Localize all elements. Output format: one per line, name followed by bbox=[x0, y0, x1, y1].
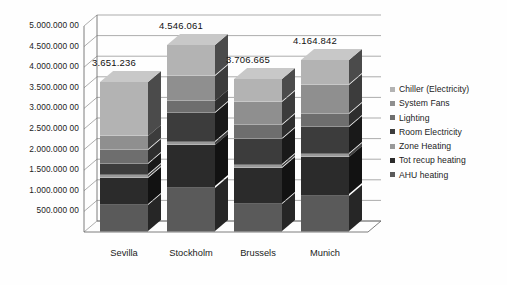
y-axis-tick-label: 1.000.000 00 bbox=[29, 185, 79, 195]
bar-segment bbox=[234, 168, 282, 204]
chart-container: 5.000.000 004.500.000 004.000.000 003.50… bbox=[0, 0, 507, 285]
bar-segment bbox=[100, 82, 148, 137]
y-axis-tick-label: 4.000.000 00 bbox=[29, 61, 79, 71]
bar-segment bbox=[167, 145, 215, 187]
bar-segment bbox=[167, 101, 215, 113]
legend-item[interactable]: AHU heating bbox=[390, 170, 507, 180]
bar-value-label: 4.164.842 bbox=[293, 35, 337, 46]
legend-item[interactable]: Tot recup heating bbox=[390, 155, 507, 165]
bar-column bbox=[234, 79, 282, 232]
bar-segment bbox=[301, 60, 349, 85]
legend-swatch-icon bbox=[390, 144, 395, 149]
legend-item-label: AHU heating bbox=[399, 170, 448, 180]
bar-segment bbox=[234, 102, 282, 125]
legend-swatch-icon bbox=[390, 101, 395, 106]
legend-item[interactable]: Lighting bbox=[390, 113, 507, 123]
legend-swatch-icon bbox=[390, 115, 395, 120]
x-axis-category-label: Brussels bbox=[220, 248, 296, 258]
legend-item[interactable]: Zone Heating bbox=[390, 141, 507, 151]
bar-stack bbox=[301, 60, 349, 232]
bar-value-label: 3.706.665 bbox=[226, 54, 270, 65]
bar-segment bbox=[100, 205, 148, 232]
legend-swatch-icon bbox=[390, 172, 395, 177]
bar-column bbox=[100, 82, 148, 232]
bar-stack bbox=[100, 82, 148, 232]
bar-column bbox=[167, 45, 215, 232]
bar-segment bbox=[301, 85, 349, 114]
legend-item-label: Room Electricity bbox=[399, 127, 462, 137]
y-axis-tick-label: 2.000.000 00 bbox=[29, 144, 79, 154]
legend-swatch-icon bbox=[390, 87, 395, 92]
y-axis-tick-label: 2.500.000 00 bbox=[29, 123, 79, 133]
legend-item-label: System Fans bbox=[399, 98, 450, 108]
y-axis-tick-label: 500.000 00 bbox=[36, 205, 79, 215]
x-axis-category-label: Munich bbox=[287, 248, 363, 258]
legend-swatch-icon bbox=[390, 158, 395, 163]
bar-segment bbox=[167, 45, 215, 76]
bar-column bbox=[301, 60, 349, 232]
bar-value-label: 3.651.236 bbox=[92, 57, 136, 68]
bar-stack bbox=[167, 45, 215, 232]
legend-item-label: Tot recup heating bbox=[399, 155, 466, 165]
bar-segment bbox=[301, 196, 349, 232]
bar-segment bbox=[301, 157, 349, 195]
bar-segment bbox=[301, 127, 349, 154]
y-axis-tick-label: 3.500.000 00 bbox=[29, 82, 79, 92]
bar-segment bbox=[234, 139, 282, 165]
legend-item[interactable]: System Fans bbox=[390, 98, 507, 108]
bar-segment bbox=[234, 79, 282, 102]
bar-segment bbox=[167, 76, 215, 102]
bar-segment bbox=[100, 178, 148, 205]
chart-legend: Chiller (Electricity)System FansLighting… bbox=[390, 84, 507, 184]
legend-item[interactable]: Chiller (Electricity) bbox=[390, 84, 507, 94]
x-axis-category-label: Sevilla bbox=[86, 248, 162, 258]
bar-segment bbox=[100, 136, 148, 150]
bar-stack bbox=[234, 79, 282, 232]
bar-value-label: 4.546.061 bbox=[159, 20, 203, 31]
x-axis-category-label: Stockholm bbox=[153, 248, 229, 258]
bar-segment bbox=[167, 113, 215, 142]
legend-swatch-icon bbox=[390, 129, 395, 134]
y-axis-tick-label: 5.000.000 00 bbox=[29, 20, 79, 30]
legend-item-label: Chiller (Electricity) bbox=[399, 84, 469, 94]
bar-segment bbox=[234, 125, 282, 139]
y-axis-tick-label: 4.500.000 00 bbox=[29, 41, 79, 51]
bar-segment bbox=[301, 114, 349, 127]
y-axis-tick-label: 1.500.000 00 bbox=[29, 164, 79, 174]
y-axis-tick-label: 3.000.000 00 bbox=[29, 102, 79, 112]
bar-segment bbox=[100, 150, 148, 164]
legend-item-label: Zone Heating bbox=[399, 141, 451, 151]
bar-segment bbox=[100, 164, 148, 175]
bar-segment bbox=[167, 188, 215, 232]
legend-item-label: Lighting bbox=[399, 113, 430, 123]
y-axis: 5.000.000 004.500.000 004.000.000 003.50… bbox=[0, 0, 82, 285]
legend-item[interactable]: Room Electricity bbox=[390, 127, 507, 137]
bar-segment bbox=[234, 204, 282, 232]
